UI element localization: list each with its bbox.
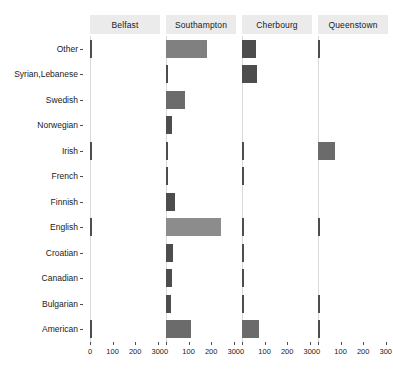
y-axis-labels: OtherSyrian,LebaneseSwedishNorwegianIris… bbox=[0, 36, 86, 342]
x-axis-tick-label: 200 bbox=[205, 347, 218, 356]
bar bbox=[166, 295, 171, 313]
y-axis-tick bbox=[80, 74, 83, 75]
facet-panel-queenstown bbox=[318, 36, 388, 342]
bar bbox=[318, 142, 335, 160]
bar bbox=[318, 295, 320, 313]
x-axis-tick-label: 300 bbox=[303, 347, 316, 356]
y-axis-label: Finnish bbox=[51, 193, 78, 211]
x-axis-tick bbox=[113, 342, 114, 345]
x-axis-tick bbox=[211, 342, 212, 345]
x-axis-tick-label: 200 bbox=[357, 347, 370, 356]
facet-strip-southampton: Southampton bbox=[166, 15, 236, 34]
x-axis-tick-label: 300 bbox=[227, 347, 240, 356]
bar bbox=[166, 269, 172, 287]
x-axis-cherbourg: 0100200300 bbox=[242, 342, 312, 366]
y-axis-tick bbox=[80, 176, 83, 177]
x-axis-tick-label: 100 bbox=[106, 347, 119, 356]
facet-panel-southampton bbox=[166, 36, 236, 342]
x-axis-tick bbox=[90, 342, 91, 345]
facet-strip-queenstown: Queenstown bbox=[318, 15, 388, 34]
x-axis-tick bbox=[287, 342, 288, 345]
bar bbox=[166, 320, 191, 338]
x-axis-tick bbox=[363, 342, 364, 345]
bar bbox=[242, 269, 244, 287]
y-axis-tick bbox=[80, 253, 83, 254]
facet-panel-row bbox=[90, 36, 388, 342]
x-axis-tick-label: 0 bbox=[316, 347, 320, 356]
bar bbox=[166, 142, 168, 160]
x-axis-tick-label: 300 bbox=[151, 347, 164, 356]
x-axis-row: 0100200300010020030001002003000100200300 bbox=[90, 342, 388, 366]
y-axis-tick bbox=[80, 100, 83, 101]
bar bbox=[166, 193, 175, 211]
bar bbox=[242, 218, 244, 236]
y-axis-label: French bbox=[52, 167, 78, 185]
x-axis-tick bbox=[158, 342, 159, 345]
x-axis-tick bbox=[265, 342, 266, 345]
y-axis-tick bbox=[80, 329, 83, 330]
bar bbox=[166, 91, 185, 109]
y-axis-label: Syrian,Lebanese bbox=[14, 65, 78, 83]
x-axis-tick-label: 200 bbox=[129, 347, 142, 356]
x-axis-tick bbox=[166, 342, 167, 345]
y-axis-label: Canadian bbox=[42, 269, 78, 287]
bar bbox=[90, 40, 92, 58]
x-axis-tick bbox=[135, 342, 136, 345]
facet-strip-cherbourg: Cherbourg bbox=[242, 15, 312, 34]
x-axis-tick bbox=[234, 342, 235, 345]
facet-strip-row: BelfastSouthamptonCherbourgQueenstown bbox=[90, 15, 388, 34]
x-axis-tick bbox=[242, 342, 243, 345]
y-axis-label: Irish bbox=[62, 142, 78, 160]
bar bbox=[242, 295, 244, 313]
facet-strip-belfast: Belfast bbox=[90, 15, 160, 34]
x-axis-tick bbox=[318, 342, 319, 345]
y-axis-label: American bbox=[42, 320, 78, 338]
x-axis-tick bbox=[386, 342, 387, 345]
chart-root: BelfastSouthamptonCherbourgQueenstown Ot… bbox=[0, 0, 393, 378]
y-axis-tick bbox=[80, 278, 83, 279]
y-axis-tick bbox=[80, 151, 83, 152]
x-axis-queenstown: 0100200300 bbox=[318, 342, 388, 366]
panel-axis-line bbox=[90, 36, 91, 342]
x-axis-tick-label: 0 bbox=[88, 347, 92, 356]
x-axis-belfast: 0100200300 bbox=[90, 342, 160, 366]
bar bbox=[90, 142, 92, 160]
x-axis-tick-label: 0 bbox=[240, 347, 244, 356]
bar bbox=[242, 142, 244, 160]
y-axis-label: Swedish bbox=[46, 91, 78, 109]
bar bbox=[318, 320, 320, 338]
bar bbox=[242, 40, 256, 58]
bar bbox=[318, 40, 320, 58]
bar bbox=[90, 320, 92, 338]
y-axis-label: Other bbox=[57, 40, 78, 58]
y-axis-label: Croatian bbox=[46, 244, 78, 262]
bar bbox=[242, 244, 244, 262]
facet-panel-cherbourg bbox=[242, 36, 312, 342]
bar bbox=[166, 116, 172, 134]
x-axis-tick bbox=[341, 342, 342, 345]
bar bbox=[242, 65, 257, 83]
y-axis-tick bbox=[80, 227, 83, 228]
y-axis-label: Norwegian bbox=[37, 116, 78, 134]
x-axis-tick-label: 0 bbox=[164, 347, 168, 356]
bar bbox=[166, 40, 207, 58]
y-axis-tick bbox=[80, 202, 83, 203]
x-axis-tick-label: 100 bbox=[182, 347, 195, 356]
bar bbox=[166, 218, 221, 236]
facet-panel-belfast bbox=[90, 36, 160, 342]
y-axis-label: English bbox=[50, 218, 78, 236]
x-axis-tick-label: 100 bbox=[334, 347, 347, 356]
y-axis-tick bbox=[80, 125, 83, 126]
bar bbox=[242, 320, 259, 338]
y-axis-tick bbox=[80, 304, 83, 305]
bar bbox=[166, 65, 168, 83]
bar bbox=[166, 167, 168, 185]
x-axis-tick-label: 200 bbox=[281, 347, 294, 356]
bar bbox=[242, 167, 244, 185]
bar bbox=[166, 244, 173, 262]
bar bbox=[90, 218, 92, 236]
x-axis-southampton: 0100200300 bbox=[166, 342, 236, 366]
x-axis-tick bbox=[310, 342, 311, 345]
y-axis-label: Bulgarian bbox=[42, 295, 78, 313]
x-axis-tick bbox=[189, 342, 190, 345]
